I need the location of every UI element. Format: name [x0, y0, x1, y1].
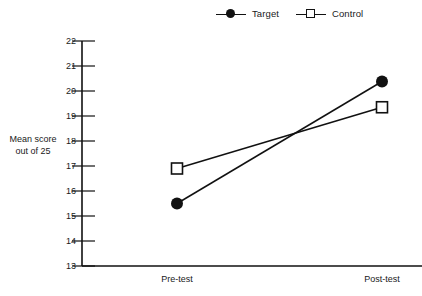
- series-line-target: [177, 82, 382, 204]
- data-point-target-pre: [171, 198, 183, 210]
- data-point-control-pre: [172, 163, 183, 174]
- series-line-control: [177, 107, 382, 168]
- data-point-control-post: [377, 102, 388, 113]
- y-tick-marks: [72, 41, 95, 266]
- plot-area: [0, 0, 422, 296]
- line-chart: Target Control Mean score out of 25 22 2…: [0, 0, 422, 296]
- data-point-target-post: [376, 76, 388, 88]
